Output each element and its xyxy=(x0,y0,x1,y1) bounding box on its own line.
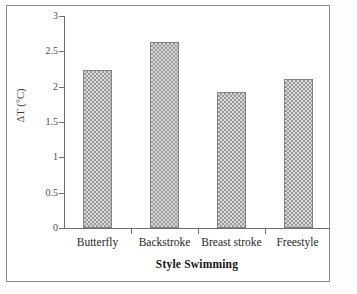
y-tick-5 xyxy=(59,51,65,52)
y-tick-label-6-wrap: 3 xyxy=(0,11,58,12)
x-tick-2 xyxy=(198,229,199,234)
y-tick-label-4: 2 xyxy=(2,82,58,92)
y-tick-label-4-wrap: 2 xyxy=(0,82,58,83)
bar-backstroke[interactable] xyxy=(150,42,179,228)
y-tick-label-5-wrap: 2.5 xyxy=(0,46,58,47)
y-tick-label-1-wrap: 0.5 xyxy=(0,188,58,189)
y-tick-label-2: 1 xyxy=(2,152,58,162)
y-tick-label-0: 0 xyxy=(2,223,58,233)
y-tick-1 xyxy=(59,193,65,194)
y-tick-label-0-wrap: 0 xyxy=(0,223,58,224)
x-axis-title: Style Swimming xyxy=(64,258,330,270)
y-tick-label-5: 2.5 xyxy=(2,46,58,56)
y-tick-label-6: 3 xyxy=(2,11,58,21)
y-tick-4 xyxy=(59,87,65,88)
x-category-label-backstroke: Backstroke xyxy=(131,236,198,249)
x-tick-3 xyxy=(265,229,266,234)
y-tick-label-1: 0.5 xyxy=(2,188,58,198)
bar-butterfly[interactable] xyxy=(83,70,112,228)
y-tick-0 xyxy=(59,228,65,229)
y-tick-label-2-wrap: 1 xyxy=(0,152,58,153)
x-axis-line xyxy=(64,228,330,229)
y-tick-6 xyxy=(59,16,65,17)
x-tick-1 xyxy=(131,229,132,234)
x-category-label-breast-stroke: Breast stroke xyxy=(198,236,265,249)
y-tick-3 xyxy=(59,122,65,123)
bar-chart-plot: 0 0.5 1 1.5 2 2.5 3 xyxy=(0,0,357,294)
scan-caption-text xyxy=(0,283,357,294)
x-category-label-butterfly: Butterfly xyxy=(64,236,131,249)
x-category-label-freestyle: Freestyle xyxy=(265,236,330,249)
bar-breast-stroke[interactable] xyxy=(217,92,246,228)
bar-freestyle[interactable] xyxy=(284,79,313,228)
y-tick-2 xyxy=(59,157,65,158)
y-tick-label-3: 1.5 xyxy=(2,117,58,127)
y-axis-title: ΔT (°C) xyxy=(15,66,26,146)
y-tick-label-3-wrap: 1.5 xyxy=(0,117,58,118)
figure-container: 0 0.5 1 1.5 2 2.5 3 xyxy=(0,0,357,294)
